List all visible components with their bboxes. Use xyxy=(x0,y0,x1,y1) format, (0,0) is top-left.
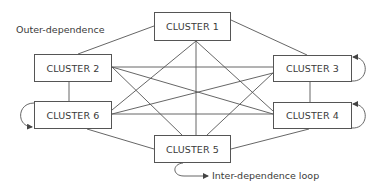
self-loop-c4 xyxy=(352,104,365,128)
cluster-4-node: CLUSTER 4 xyxy=(273,102,352,129)
edge-c1-c6 xyxy=(112,41,196,110)
cluster-2-label: CLUSTER 2 xyxy=(47,63,100,74)
self-loop-c3 xyxy=(352,57,365,81)
cluster-3-node: CLUSTER 3 xyxy=(273,55,352,82)
cluster-1-label: CLUSTER 1 xyxy=(166,21,219,32)
cluster-5-label: CLUSTER 5 xyxy=(166,144,219,155)
cluster-2-node: CLUSTER 2 xyxy=(34,54,112,82)
edge-c3-c5 xyxy=(207,73,273,135)
cluster-6-label: CLUSTER 6 xyxy=(47,110,100,121)
outer-dependence-label: Outer-dependence xyxy=(16,24,105,35)
cluster-3-label: CLUSTER 3 xyxy=(286,63,339,74)
inter-dependence-loop-label: Inter-dependence loop xyxy=(212,170,319,181)
cluster-4-label: CLUSTER 4 xyxy=(286,110,339,121)
self-loop-c5 xyxy=(175,163,208,176)
cluster-1-node: CLUSTER 1 xyxy=(154,12,231,41)
cluster-5-node: CLUSTER 5 xyxy=(154,135,231,163)
self-loop-c6 xyxy=(21,103,34,127)
edge-c1-c3 xyxy=(231,20,307,55)
edge-c6-c3 xyxy=(112,73,273,114)
edge-c4-c5 xyxy=(231,129,309,149)
edge-c6-c5 xyxy=(87,129,154,149)
cluster-6-node: CLUSTER 6 xyxy=(34,101,112,129)
